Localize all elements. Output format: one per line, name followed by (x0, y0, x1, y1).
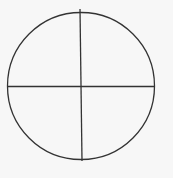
background (0, 0, 173, 178)
circle-quadrant-diagram (0, 0, 173, 178)
diagram-canvas (0, 0, 173, 178)
